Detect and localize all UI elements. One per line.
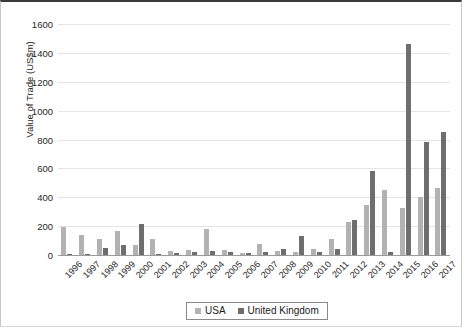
bar-group-1997 bbox=[76, 24, 94, 255]
y-tick-label-1600: 1600 bbox=[32, 19, 53, 30]
x-tick-cell-2009: 2009 bbox=[290, 255, 308, 299]
x-tick-cell-2001: 2001 bbox=[147, 255, 165, 299]
y-tick-label-1400: 1400 bbox=[32, 47, 53, 58]
bar-group-2009 bbox=[290, 24, 308, 255]
bar-group-1996 bbox=[58, 24, 76, 255]
legend-swatch-united-kingdom bbox=[238, 308, 244, 314]
bar-series-container bbox=[58, 24, 450, 255]
y-tick-label-400: 400 bbox=[37, 192, 53, 203]
y-tick-label-0: 0 bbox=[48, 250, 53, 261]
bar-usa-1998 bbox=[97, 239, 102, 255]
legend-swatch-usa bbox=[195, 308, 201, 314]
y-tick-label-1000: 1000 bbox=[32, 105, 53, 116]
bar-usa-2004 bbox=[204, 229, 209, 255]
x-tick-cell-2010: 2010 bbox=[307, 255, 325, 299]
bar-group-2013 bbox=[361, 24, 379, 255]
bar-united-kingdom-2009 bbox=[299, 236, 304, 255]
legend-item-usa: USA bbox=[195, 305, 226, 316]
legend-label-usa: USA bbox=[205, 305, 226, 316]
bar-united-kingdom-2017 bbox=[441, 132, 446, 255]
x-tick-cell-2011: 2011 bbox=[325, 255, 343, 299]
y-tick-label-800: 800 bbox=[37, 134, 53, 145]
x-tick-label-2017: 2017 bbox=[437, 259, 458, 280]
chart-legend: USA United Kingdom bbox=[186, 302, 328, 320]
bar-group-2016 bbox=[414, 24, 432, 255]
legend-label-united-kingdom: United Kingdom bbox=[248, 305, 319, 316]
x-tick-cell-1999: 1999 bbox=[111, 255, 129, 299]
bar-group-2015 bbox=[396, 24, 414, 255]
bar-usa-2011 bbox=[329, 239, 334, 255]
legend-item-united-kingdom: United Kingdom bbox=[238, 305, 319, 316]
x-tick-cell-2004: 2004 bbox=[201, 255, 219, 299]
bar-usa-1997 bbox=[79, 235, 84, 255]
y-tick-label-600: 600 bbox=[37, 163, 53, 174]
bar-group-2017 bbox=[432, 24, 450, 255]
bar-united-kingdom-2000 bbox=[139, 224, 144, 255]
bar-chart-figure: Value of Trade (US$m) 160014001200100080… bbox=[0, 0, 462, 327]
bar-group-2008 bbox=[272, 24, 290, 255]
bar-group-1999 bbox=[111, 24, 129, 255]
bar-usa-2014 bbox=[382, 190, 387, 255]
bar-group-2007 bbox=[254, 24, 272, 255]
y-tick-label-200: 200 bbox=[37, 221, 53, 232]
bar-group-2002 bbox=[165, 24, 183, 255]
bar-group-2011 bbox=[325, 24, 343, 255]
bar-united-kingdom-1998 bbox=[103, 248, 108, 255]
bar-usa-1996 bbox=[61, 227, 66, 255]
x-tick-cell-2006: 2006 bbox=[236, 255, 254, 299]
bar-usa-1999 bbox=[115, 231, 120, 255]
x-tick-cell-1997: 1997 bbox=[76, 255, 94, 299]
bar-united-kingdom-2016 bbox=[424, 142, 429, 255]
bar-group-2003 bbox=[183, 24, 201, 255]
bar-usa-2013 bbox=[364, 205, 369, 255]
x-tick-cell-2008: 2008 bbox=[272, 255, 290, 299]
bar-united-kingdom-2012 bbox=[352, 220, 357, 255]
bar-usa-2016 bbox=[418, 197, 423, 255]
bar-united-kingdom-2013 bbox=[370, 171, 375, 255]
x-tick-cell-2012: 2012 bbox=[343, 255, 361, 299]
x-tick-cell-2017: 2017 bbox=[432, 255, 450, 299]
x-tick-cell-2015: 2015 bbox=[396, 255, 414, 299]
bar-group-2001 bbox=[147, 24, 165, 255]
bar-usa-2001 bbox=[150, 239, 155, 255]
x-tick-cell-2014: 2014 bbox=[379, 255, 397, 299]
x-tick-cell-2013: 2013 bbox=[361, 255, 379, 299]
x-tick-cell-1996: 1996 bbox=[58, 255, 76, 299]
x-tick-cell-2016: 2016 bbox=[414, 255, 432, 299]
x-tick-cell-2007: 2007 bbox=[254, 255, 272, 299]
bar-usa-2000 bbox=[133, 245, 138, 255]
x-tick-cell-2005: 2005 bbox=[218, 255, 236, 299]
bar-group-1998 bbox=[94, 24, 112, 255]
bar-united-kingdom-1999 bbox=[121, 245, 126, 255]
bar-group-2014 bbox=[379, 24, 397, 255]
x-tick-cell-1998: 1998 bbox=[94, 255, 112, 299]
bar-group-2005 bbox=[218, 24, 236, 255]
x-tick-cell-2002: 2002 bbox=[165, 255, 183, 299]
bar-group-2012 bbox=[343, 24, 361, 255]
bar-usa-2015 bbox=[400, 208, 405, 255]
bar-usa-2017 bbox=[435, 188, 440, 255]
y-tick-label-1200: 1200 bbox=[32, 76, 53, 87]
bar-united-kingdom-2015 bbox=[406, 44, 411, 255]
x-tick-cell-2003: 2003 bbox=[183, 255, 201, 299]
x-tick-cell-2000: 2000 bbox=[129, 255, 147, 299]
bar-usa-2012 bbox=[346, 222, 351, 255]
bar-group-2006 bbox=[236, 24, 254, 255]
bar-group-2000 bbox=[129, 24, 147, 255]
x-axis-ticks: 1996199719981999200020012002200320042005… bbox=[58, 255, 450, 299]
bar-usa-2007 bbox=[257, 244, 262, 255]
plot-area: 16001400120010008006004002000 bbox=[58, 24, 450, 255]
bar-group-2010 bbox=[307, 24, 325, 255]
bar-group-2004 bbox=[201, 24, 219, 255]
